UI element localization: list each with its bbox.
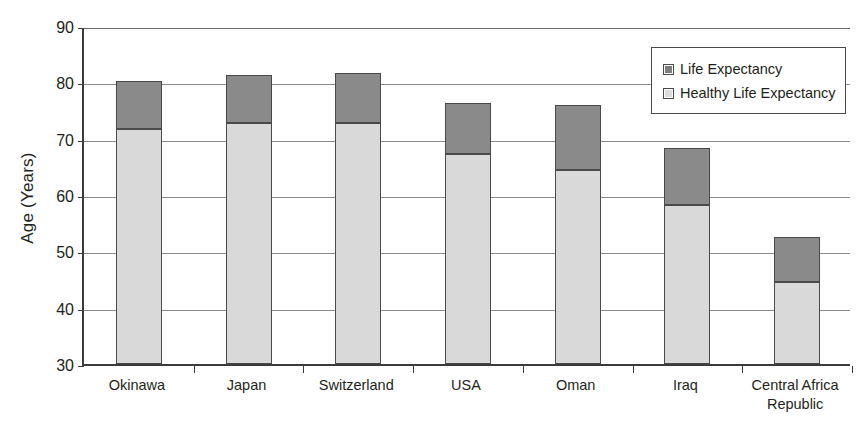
- bar-segment-healthy-life-expectancy[interactable]: [774, 282, 820, 364]
- bar-segment-healthy-life-expectancy[interactable]: [555, 170, 601, 364]
- x-tick-0: [194, 366, 195, 373]
- legend-item-healthy-life-expectancy[interactable]: Healthy Life Expectancy: [663, 81, 845, 105]
- legend-label-life-expectancy: Life Expectancy: [680, 61, 782, 77]
- bar-segment-healthy-life-expectancy[interactable]: [445, 154, 491, 364]
- y-tick-label-50: 50: [34, 244, 74, 262]
- bar-segment-life-expectancy[interactable]: [226, 75, 272, 123]
- x-tick-label-oman: Oman: [521, 376, 631, 395]
- bar-segment-healthy-life-expectancy[interactable]: [116, 129, 162, 364]
- stacked-bar-chart: Age (Years) 30405060708090 OkinawaJapanS…: [0, 0, 868, 436]
- bar-segment-life-expectancy[interactable]: [335, 73, 381, 123]
- x-tick-label-line: Central Africa: [740, 376, 850, 395]
- x-tick-3: [523, 366, 524, 373]
- bar-segment-healthy-life-expectancy[interactable]: [664, 205, 710, 364]
- y-tick-label-90: 90: [34, 19, 74, 37]
- x-tick-4: [633, 366, 634, 373]
- x-tick-5: [742, 366, 743, 373]
- chart-legend: Life Expectancy Healthy Life Expectancy: [651, 47, 846, 114]
- bar-group[interactable]: [335, 26, 381, 364]
- x-tick-label-line: Oman: [521, 376, 631, 395]
- x-tick-label-line: Switzerland: [301, 376, 411, 395]
- bar-segment-healthy-life-expectancy[interactable]: [335, 123, 381, 364]
- x-tick-label-switzerland: Switzerland: [301, 376, 411, 395]
- legend-label-healthy-life-expectancy: Healthy Life Expectancy: [680, 85, 836, 101]
- x-tick-6: [852, 366, 853, 373]
- x-axis-tick-labels: OkinawaJapanSwitzerlandUSAOmanIraqCentra…: [82, 376, 850, 432]
- x-tick-1: [303, 366, 304, 373]
- legend-item-life-expectancy[interactable]: Life Expectancy: [663, 57, 845, 81]
- bar-group[interactable]: [445, 26, 491, 364]
- x-tick-label-line: Iraq: [631, 376, 741, 395]
- bar-segment-life-expectancy[interactable]: [664, 148, 710, 205]
- x-tick-label-central-africa-republic: Central AfricaRepublic: [740, 376, 850, 414]
- legend-swatch-life-expectancy: [663, 64, 674, 75]
- bar-group[interactable]: [226, 26, 272, 364]
- bar-segment-life-expectancy[interactable]: [116, 81, 162, 128]
- x-tick-label-line: Republic: [740, 395, 850, 414]
- x-tick-label-okinawa: Okinawa: [82, 376, 192, 395]
- y-tick-30: [78, 366, 84, 367]
- x-tick-label-iraq: Iraq: [631, 376, 741, 395]
- bar-group[interactable]: [116, 26, 162, 364]
- bar-segment-life-expectancy[interactable]: [555, 105, 601, 169]
- y-tick-label-80: 80: [34, 75, 74, 93]
- x-tick-label-line: Okinawa: [82, 376, 192, 395]
- y-tick-label-70: 70: [34, 132, 74, 150]
- y-tick-label-40: 40: [34, 301, 74, 319]
- bar-segment-life-expectancy[interactable]: [445, 103, 491, 155]
- y-tick-label-60: 60: [34, 188, 74, 206]
- y-tick-label-30: 30: [34, 357, 74, 375]
- x-tick-label-usa: USA: [411, 376, 521, 395]
- x-tick-2: [413, 366, 414, 373]
- bar-group[interactable]: [555, 26, 601, 364]
- x-tick-label-japan: Japan: [192, 376, 302, 395]
- bar-segment-healthy-life-expectancy[interactable]: [226, 123, 272, 364]
- x-tick-label-line: Japan: [192, 376, 302, 395]
- legend-swatch-healthy-life-expectancy: [663, 88, 674, 99]
- x-tick-label-line: USA: [411, 376, 521, 395]
- bar-segment-life-expectancy[interactable]: [774, 237, 820, 282]
